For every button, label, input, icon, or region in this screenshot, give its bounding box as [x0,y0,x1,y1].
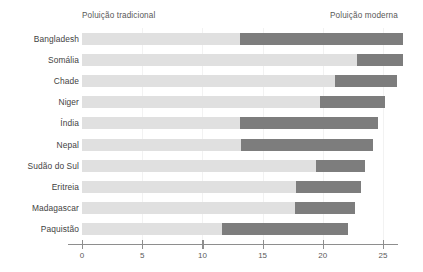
stacked-bar-chart: Poluição tradicional Poluição moderna Ba… [0,0,423,272]
chart-row: Eritreia [0,176,423,197]
bar-segment-traditional[interactable] [82,96,320,108]
chart-row: Índia [0,113,423,134]
x-axis-tick [142,240,143,249]
category-label: Eritreia [52,182,79,192]
x-axis-tick-label: 5 [140,251,144,260]
bar-segment-traditional[interactable] [82,202,295,214]
category-label: Nepal [57,140,79,150]
category-label: Índia [60,118,79,128]
chart-row: Madagascar [0,198,423,219]
category-label: Chade [54,76,79,86]
category-label: Bangladesh [34,34,79,44]
legend-item-traditional: Poluição tradicional [82,11,155,20]
bar-segment-traditional[interactable] [82,181,296,193]
bar-segment-modern[interactable] [240,117,378,129]
stacked-bar[interactable] [82,181,361,193]
bar-segment-modern[interactable] [222,223,348,235]
chart-row: Sudão do Sul [0,155,423,176]
category-label: Paquistão [41,224,79,234]
stacked-bar[interactable] [82,160,365,172]
x-axis: 0510152025 [0,240,423,272]
bar-segment-modern[interactable] [295,202,355,214]
chart-row: Paquistão [0,219,423,240]
bar-segment-traditional[interactable] [82,139,241,151]
x-axis-tick [82,240,83,249]
stacked-bar[interactable] [82,96,385,108]
category-label: Niger [58,97,79,107]
chart-row: Nepal [0,134,423,155]
plot-area: BangladeshSomáliaChadeNigerÍndiaNepalSud… [0,28,423,240]
x-axis-tick [263,240,264,249]
x-axis-tick [323,240,324,249]
x-axis-tick [383,240,384,249]
category-label: Somália [48,55,79,65]
bar-segment-modern[interactable] [316,160,365,172]
chart-legend: Poluição tradicional Poluição moderna [0,11,423,27]
bar-segment-traditional[interactable] [82,117,240,129]
stacked-bar[interactable] [82,139,373,151]
stacked-bar[interactable] [82,117,378,129]
chart-row: Bangladesh [0,28,423,49]
stacked-bar[interactable] [82,54,403,66]
x-axis-tick-label: 0 [80,251,84,260]
stacked-bar[interactable] [82,202,355,214]
bar-segment-traditional[interactable] [82,33,240,45]
bar-segment-modern[interactable] [296,181,361,193]
category-label: Sudão do Sul [28,161,80,171]
bar-segment-modern[interactable] [357,54,404,66]
bar-segment-modern[interactable] [320,96,385,108]
chart-row: Chade [0,70,423,91]
bar-segment-modern[interactable] [240,33,404,45]
bar-segment-modern[interactable] [241,139,373,151]
stacked-bar[interactable] [82,75,397,87]
stacked-bar[interactable] [82,33,403,45]
x-axis-tick [202,240,203,249]
x-axis-tick-label: 25 [379,251,388,260]
x-axis-tick-label: 10 [198,251,207,260]
stacked-bar[interactable] [82,223,348,235]
x-axis-tick-label: 20 [318,251,327,260]
bar-segment-traditional[interactable] [82,75,335,87]
x-axis-line [68,244,398,245]
chart-row: Somália [0,49,423,70]
bar-segment-modern[interactable] [335,75,398,87]
x-axis-tick-label: 15 [258,251,267,260]
bar-segment-traditional[interactable] [82,54,357,66]
legend-item-modern: Poluição moderna [330,11,398,20]
bar-segment-traditional[interactable] [82,223,222,235]
chart-row: Niger [0,92,423,113]
category-label: Madagascar [32,203,79,213]
bar-segment-traditional[interactable] [82,160,316,172]
